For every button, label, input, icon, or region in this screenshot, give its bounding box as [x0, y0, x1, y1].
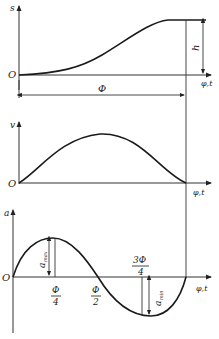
v-axis-label: v: [10, 120, 15, 130]
svg-text:a: a: [153, 301, 163, 306]
amin-label: a min: [153, 290, 164, 306]
tick-three-quarter: 3Φ 4: [132, 255, 149, 277]
origin-label: O: [8, 178, 16, 189]
velocity-panel: v O φ,t: [8, 120, 211, 197]
svg-text:Φ: Φ: [52, 285, 59, 295]
acceleration-panel: a O φ,t a max a min Φ 4 Φ 2 3Φ: [2, 208, 211, 333]
amax-label: a max: [37, 251, 48, 268]
tick-quarter: Φ 4: [51, 285, 61, 307]
svg-text:max: max: [42, 251, 48, 262]
s-axis-label: s: [10, 3, 15, 13]
x-axis-label: φ,t: [193, 188, 205, 197]
h-label: h: [190, 45, 201, 51]
origin-label: O: [2, 272, 10, 283]
svg-text:a: a: [37, 263, 47, 268]
svg-text:min: min: [158, 290, 164, 300]
x-axis-label: φ,t: [196, 284, 208, 293]
displacement-panel: s O φ,t h Φ: [8, 3, 213, 277]
a-axis-label: a: [4, 208, 9, 218]
svg-text:4: 4: [52, 297, 59, 307]
svg-text:2: 2: [92, 297, 99, 307]
motion-diagram: s O φ,t h Φ v O φ,t a O φ,t a max: [0, 0, 219, 339]
svg-text:Φ: Φ: [92, 285, 99, 295]
phi-label: Φ: [98, 83, 106, 94]
tick-half: Φ 2: [91, 285, 101, 307]
x-axis-label: φ,t: [201, 79, 213, 88]
svg-text:4: 4: [137, 267, 144, 277]
velocity-curve: [19, 134, 186, 183]
displacement-curve: [19, 20, 206, 75]
svg-text:3Φ: 3Φ: [133, 255, 146, 265]
origin-label: O: [8, 69, 16, 80]
